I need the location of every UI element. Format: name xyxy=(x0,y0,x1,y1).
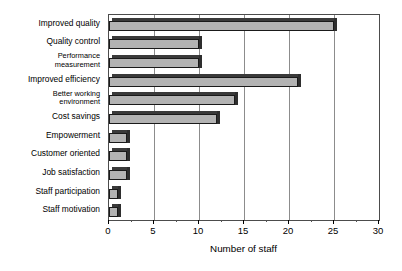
bar-front-face xyxy=(109,151,127,161)
bar-side-face xyxy=(127,148,130,161)
bar-front-face xyxy=(109,170,127,180)
category-label: Improved quality xyxy=(0,19,100,28)
bar xyxy=(109,186,121,199)
x-tick-25 xyxy=(333,220,334,224)
category-label: Staff motivation xyxy=(0,205,100,214)
bar xyxy=(109,36,202,49)
bar xyxy=(109,74,301,87)
bar xyxy=(109,148,130,161)
bar-front-face xyxy=(109,114,217,124)
x-tick-minor xyxy=(221,220,222,222)
bar-side-face xyxy=(127,130,130,143)
x-tick-5 xyxy=(153,220,154,224)
bar-front-face xyxy=(109,77,298,87)
bar-side-face xyxy=(217,111,220,124)
x-tick-minor xyxy=(131,220,132,222)
x-axis-title: Number of staff xyxy=(108,243,379,254)
bar xyxy=(109,111,220,124)
bar-front-face xyxy=(109,58,199,68)
category-label: Improved efficiency xyxy=(0,75,100,84)
x-tick-10 xyxy=(198,220,199,224)
x-tick-20 xyxy=(288,220,289,224)
plot-area xyxy=(108,14,380,221)
x-tick-label: 0 xyxy=(96,225,120,236)
bar xyxy=(109,130,130,143)
bar-side-face xyxy=(235,92,238,105)
category-label: Better working environment xyxy=(0,90,100,106)
x-tick-label: 30 xyxy=(366,225,390,236)
x-tick-label: 5 xyxy=(141,225,165,236)
x-tick-label: 15 xyxy=(231,225,255,236)
bar-front-face xyxy=(109,207,118,217)
bar-side-face xyxy=(127,167,130,180)
bar-front-face xyxy=(109,21,334,31)
bar xyxy=(109,167,130,180)
bar-side-face xyxy=(199,55,202,68)
bar-front-face xyxy=(109,133,127,143)
x-tick-minor xyxy=(311,220,312,222)
category-label: Quality control xyxy=(0,37,100,46)
category-label: Customer oriented xyxy=(0,149,100,158)
bar-front-face xyxy=(109,95,235,105)
x-tick-15 xyxy=(243,220,244,224)
bar xyxy=(109,18,337,31)
x-tick-label: 25 xyxy=(321,225,345,236)
bar xyxy=(109,92,238,105)
x-tick-0 xyxy=(108,220,109,224)
category-label: Cost savings xyxy=(0,112,100,121)
bar-front-face xyxy=(109,39,199,49)
category-axis-labels: Improved qualityQuality controlPerforman… xyxy=(0,14,104,219)
bar-side-face xyxy=(334,18,337,31)
x-tick-30 xyxy=(378,220,379,224)
gridline-25 xyxy=(334,15,335,220)
x-tick-minor xyxy=(266,220,267,222)
gridline-15 xyxy=(244,15,245,220)
category-label: Performance measurement xyxy=(0,52,100,68)
bar-side-face xyxy=(298,74,301,87)
category-label: Empowerment xyxy=(0,131,100,140)
gridline-20 xyxy=(289,15,290,220)
bar-chart: Improved qualityQuality controlPerforman… xyxy=(0,0,402,271)
bar-side-face xyxy=(118,204,121,217)
category-label: Staff participation xyxy=(0,187,100,196)
category-label: Job satisfaction xyxy=(0,168,100,177)
bar-side-face xyxy=(199,36,202,49)
x-tick-label: 10 xyxy=(186,225,210,236)
x-tick-minor xyxy=(176,220,177,222)
x-tick-label: 20 xyxy=(276,225,300,236)
bar-side-face xyxy=(118,186,121,199)
bar xyxy=(109,55,202,68)
bar-front-face xyxy=(109,189,118,199)
x-tick-minor xyxy=(356,220,357,222)
bar xyxy=(109,204,121,217)
